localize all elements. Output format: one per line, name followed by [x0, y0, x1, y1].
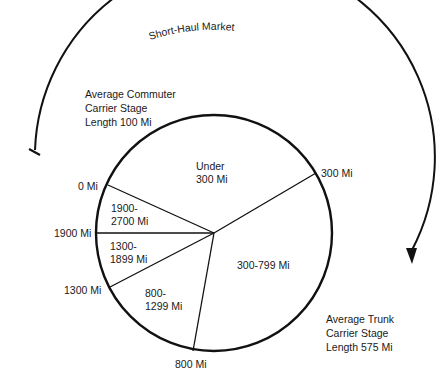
- slice-1300-1899: 1300- 1899 Mi: [110, 240, 147, 265]
- slice-300-799: 300-799 Mi: [237, 259, 290, 271]
- boundary-0mi: 0 Mi: [78, 180, 98, 192]
- trunk-annotation: Average Trunk Carrier Stage Length 575 M…: [326, 313, 397, 353]
- slice-under-300: Under 300 Mi: [196, 160, 228, 185]
- short-haul-label: Short-Haul Market: [147, 20, 235, 42]
- commuter-annotation: Average Commuter Carrier Stage Length 10…: [85, 88, 179, 128]
- slice-1900-2700: 1900- 2700 Mi: [111, 202, 148, 227]
- boundary-1300mi: 1300 Mi: [64, 284, 101, 296]
- spoke-300mi: [214, 173, 316, 233]
- boundary-800mi: 800 Mi: [175, 358, 207, 370]
- spoke-800mi: [193, 233, 214, 351]
- boundary-1900mi: 1900 Mi: [54, 227, 91, 239]
- stage-length-diagram: Short-Haul Market Average Commuter Carri…: [0, 0, 436, 385]
- boundary-300mi: 300 Mi: [321, 167, 353, 179]
- slice-800-1299: 800- 1299 Mi: [145, 287, 182, 312]
- arrowhead-icon: [406, 248, 417, 264]
